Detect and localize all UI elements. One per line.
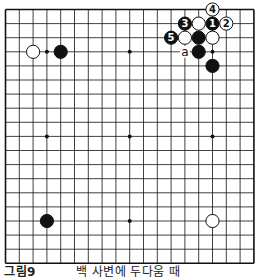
figure-number: 그림9	[4, 265, 36, 279]
black-stone	[192, 45, 205, 58]
caption-text: 백 사변에 두다움 때	[76, 265, 181, 279]
black-stone: 1	[206, 17, 219, 30]
move-number: 1	[209, 18, 216, 29]
hoshi-point	[128, 219, 132, 223]
go-board: 41235a	[0, 0, 258, 268]
white-stone	[26, 45, 39, 58]
white-stone	[206, 31, 219, 44]
hoshi-point	[128, 50, 132, 54]
figure-caption: 그림9백 사변에 두다움 때	[4, 262, 181, 279]
black-stone	[54, 45, 67, 58]
hoshi-point	[211, 50, 215, 54]
hoshi-point	[211, 134, 215, 138]
black-stone	[40, 214, 53, 227]
black-stone: 3	[178, 17, 191, 30]
hoshi-point	[45, 134, 49, 138]
point-label-a: a	[181, 45, 188, 59]
move-number: 2	[223, 18, 230, 29]
move-number: 4	[209, 4, 216, 15]
hoshi-point	[128, 134, 132, 138]
hoshi-point	[45, 50, 49, 54]
black-stone: 5	[165, 31, 178, 44]
white-stone: 2	[220, 17, 233, 30]
white-stone	[192, 17, 205, 30]
black-stone	[192, 31, 205, 44]
black-stone	[206, 59, 219, 72]
white-stone	[178, 31, 191, 44]
move-number: 5	[168, 32, 175, 43]
white-stone	[206, 214, 219, 227]
move-number: 3	[181, 18, 188, 29]
white-stone: 4	[206, 3, 219, 16]
